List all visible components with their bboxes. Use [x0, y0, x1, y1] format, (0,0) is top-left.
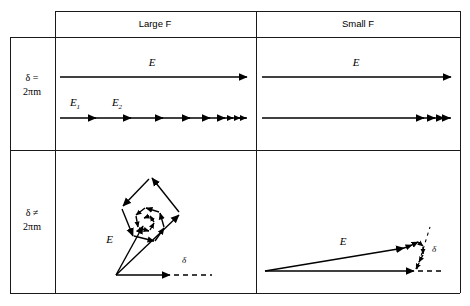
resultant-vector-label: E: [352, 56, 360, 68]
resultant-vector-label: E: [148, 56, 156, 68]
chain-segment: [123, 179, 149, 206]
chain-segment: [144, 216, 149, 218]
row-label-delta-not-equal-line1: δ ≠: [26, 207, 39, 218]
component-vector-label-e1: E1: [69, 96, 80, 111]
cell-large-f-in-phase: E E1 E2: [60, 56, 247, 118]
chain-segment: [116, 215, 179, 275]
component-vector-label-e2: E2: [111, 96, 123, 111]
component-vector-chain: [116, 178, 179, 275]
table-grid: [10, 11, 460, 293]
chain-segment: [418, 242, 423, 246]
resultant-vector-label: E: [105, 233, 113, 245]
angle-label-delta: δ: [432, 244, 437, 254]
chain-segment: [155, 228, 164, 241]
chain-segment: [150, 216, 154, 222]
cell-small-f-in-phase: E: [262, 56, 451, 118]
chain-segment: [419, 255, 423, 262]
chain-segment: [152, 178, 179, 212]
cell-large-f-out-of-phase: δ: [105, 178, 212, 275]
row-label-delta-equal-line1: δ =: [26, 72, 39, 83]
chain-segment: [136, 216, 138, 227]
column-header-large-f: Large F: [139, 18, 172, 29]
angle-label-delta: δ: [182, 255, 187, 265]
chain-segment: [412, 242, 418, 245]
figure-canvas: Large F Small F δ = 2πm δ ≠ 2πm E: [0, 0, 470, 306]
resultant-vector-arrow: [265, 248, 404, 271]
row-label-delta-not-equal-line2: 2πm: [23, 221, 41, 232]
row-label-delta-equal-line2: 2πm: [23, 86, 41, 97]
cell-small-f-out-of-phase: δ E: [265, 227, 444, 271]
chain-segment: [146, 208, 159, 212]
component-vector-chain: [404, 242, 423, 269]
column-header-small-f: Small F: [342, 18, 374, 29]
vector-diagram-figure: Large F Small F δ = 2πm δ ≠ 2πm E: [0, 0, 470, 306]
chain-segment: [136, 208, 145, 215]
resultant-vector-arrow: [116, 226, 143, 275]
chain-segment: [160, 213, 164, 227]
resultant-vector-label: E: [339, 235, 347, 247]
chain-segment: [150, 223, 154, 230]
chain-segment: [122, 209, 133, 236]
chain-segment: [404, 245, 412, 248]
